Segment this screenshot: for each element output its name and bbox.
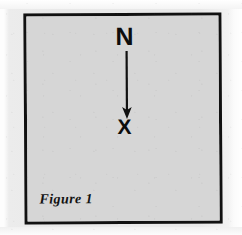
figure-caption: Figure 1 — [39, 191, 92, 207]
north-direction-label: N — [26, 23, 218, 49]
point-marker-x: X — [27, 115, 219, 137]
page-top-margin — [0, 0, 242, 9]
page-bottom-margin — [0, 227, 242, 235]
figure-canvas: N X Figure 1 — [26, 15, 219, 221]
north-arrow-icon — [110, 49, 144, 121]
scanned-figure-page: N X Figure 1 — [0, 0, 242, 235]
figure-frame: N X Figure 1 — [23, 12, 222, 224]
